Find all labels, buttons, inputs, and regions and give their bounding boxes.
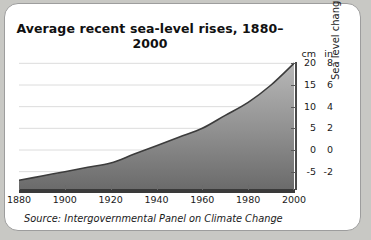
y-tick: [291, 150, 296, 151]
x-tick: [293, 185, 294, 190]
y-tick-label-cm: -5: [299, 166, 316, 177]
y-tick-label-cm: 10: [299, 101, 316, 112]
y-tick-label-in: 0: [321, 144, 333, 155]
y-tick-label-cm: 0: [299, 144, 316, 155]
y-tick-label-row: -5-2: [299, 166, 339, 178]
x-tick-label: 2000: [269, 194, 319, 205]
x-tick: [111, 185, 112, 190]
chart-card: Average recent sea-level rises, 1880–200…: [4, 3, 361, 231]
y-tick-label-in: -2: [321, 166, 333, 177]
x-tick: [19, 185, 20, 190]
y-tick-label-row: 156: [299, 79, 339, 91]
x-tick: [65, 185, 66, 190]
y-tick-label-cm: 5: [299, 122, 316, 133]
y-tick-label-row: 52: [299, 122, 339, 134]
x-tick-label: 1920: [86, 194, 136, 205]
page-title: Average recent sea-level rises, 1880–200…: [5, 21, 295, 51]
y-tick-label-in: 2: [321, 122, 333, 133]
y-axis-title: Sea level change: [330, 0, 344, 80]
y-tick: [291, 128, 296, 129]
area-fill: [19, 63, 294, 189]
x-tick-label: 1980: [223, 194, 273, 205]
area-chart-svg: [19, 59, 294, 189]
y-tick: [291, 107, 296, 108]
y-tick: [291, 85, 296, 86]
source-caption: Source: Intergovernmental Panel on Clima…: [24, 213, 283, 224]
x-tick-label: 1880: [0, 194, 44, 205]
y-tick-label-row: 00: [299, 144, 339, 156]
y-tick-label-row: 104: [299, 101, 339, 113]
x-tick: [157, 185, 158, 190]
y-tick: [291, 63, 296, 64]
y-tick-label-cm: 15: [299, 79, 316, 90]
y-tick-label-cm: 20: [299, 57, 316, 68]
y-tick-label-in: 4: [321, 101, 333, 112]
plot-area: [19, 59, 294, 189]
y-tick-label-in: 6: [321, 79, 333, 90]
y-tick: [291, 172, 296, 173]
x-tick-label: 1960: [177, 194, 227, 205]
x-tick-label: 1940: [132, 194, 182, 205]
x-tick: [202, 185, 203, 190]
x-tick-label: 1900: [40, 194, 90, 205]
x-tick: [248, 185, 249, 190]
